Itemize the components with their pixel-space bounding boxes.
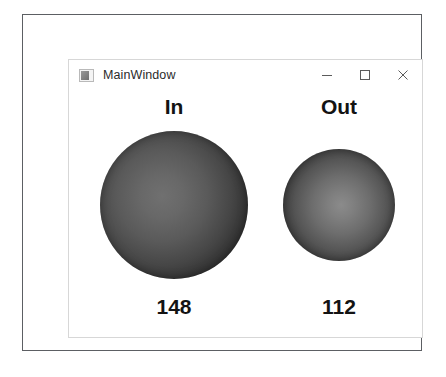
gauge-out-sphere-container (269, 127, 409, 287)
application-window: MainWindow In (68, 59, 423, 338)
close-button[interactable] (384, 60, 422, 90)
window-title: MainWindow (103, 68, 308, 82)
app-icon (79, 69, 94, 82)
client-area: In 148 Out 112 (69, 90, 422, 337)
gauge-in-sphere-container (91, 127, 257, 287)
gauge-out: Out 112 (269, 96, 409, 317)
gauge-in: In 148 (91, 96, 257, 317)
gauge-out-value: 112 (322, 296, 356, 317)
close-icon (397, 69, 409, 81)
gauge-out-sphere (283, 149, 395, 261)
screenshot-frame: MainWindow In (22, 14, 422, 351)
gauge-in-value: 148 (156, 296, 191, 317)
minimize-button[interactable] (308, 60, 346, 90)
minimize-icon (321, 69, 333, 81)
gauge-in-label: In (165, 96, 184, 117)
maximize-button[interactable] (346, 60, 384, 90)
gauge-in-sphere (100, 131, 248, 279)
title-bar[interactable]: MainWindow (69, 60, 422, 90)
maximize-icon (359, 69, 371, 81)
gauge-out-label: Out (321, 96, 357, 117)
